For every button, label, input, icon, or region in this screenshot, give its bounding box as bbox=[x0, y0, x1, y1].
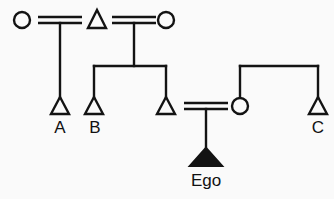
person-label-c: C bbox=[312, 118, 324, 137]
person-symbol-triangle-a bbox=[51, 97, 69, 114]
descent-group-d4 bbox=[240, 66, 318, 97]
person-symbol-triangle-ego bbox=[190, 148, 222, 166]
kinship-diagram: A B C Ego bbox=[0, 0, 334, 199]
person-label-ego: Ego bbox=[191, 171, 221, 190]
person-symbol-circle-p1 bbox=[14, 12, 30, 28]
person-symbol-triangle-b bbox=[85, 97, 103, 114]
person-symbol-circle-p7 bbox=[232, 98, 248, 114]
person-symbol-triangle-p2 bbox=[88, 10, 106, 28]
kinship-diagram-canvas: A B C Ego bbox=[0, 0, 334, 199]
person-symbol-circle-p3 bbox=[158, 12, 174, 28]
descent-group-d2 bbox=[94, 23, 166, 97]
person-symbol-triangle-c bbox=[309, 97, 327, 114]
person-label-b: B bbox=[89, 118, 100, 137]
person-symbol-triangle-p6 bbox=[157, 97, 175, 114]
person-label-a: A bbox=[54, 118, 66, 137]
